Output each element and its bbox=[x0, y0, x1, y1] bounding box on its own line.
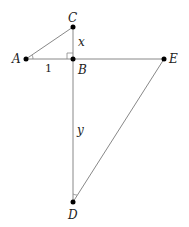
label-AB: 1 bbox=[45, 62, 52, 75]
segment-AC bbox=[26, 27, 73, 59]
point-A bbox=[24, 57, 29, 62]
point-E bbox=[162, 57, 167, 62]
label-BD: y bbox=[76, 123, 84, 137]
label-E: E bbox=[168, 52, 178, 66]
point-C bbox=[71, 25, 76, 30]
label-B: B bbox=[77, 63, 87, 77]
label-A: A bbox=[11, 52, 21, 66]
segment-DE bbox=[73, 59, 164, 202]
angle-mark-A bbox=[32, 55, 33, 59]
geometry-diagram: A B C D E 1 x y bbox=[0, 0, 189, 227]
point-B bbox=[71, 57, 76, 62]
label-C: C bbox=[68, 11, 77, 25]
angle-mark-D bbox=[73, 194, 77, 195]
label-BC: x bbox=[78, 35, 85, 49]
point-D bbox=[71, 200, 76, 205]
label-D: D bbox=[67, 208, 78, 222]
